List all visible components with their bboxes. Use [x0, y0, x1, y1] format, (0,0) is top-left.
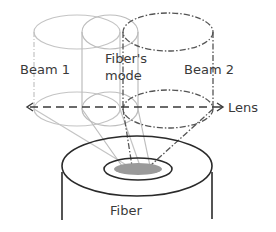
- lens-label: Lens: [228, 100, 258, 115]
- beam2-label: Beam 2: [184, 62, 234, 77]
- fiber-mode-label-line2: mode: [105, 68, 142, 83]
- fiber-mode-label-line1: Fiber's: [105, 51, 147, 66]
- beam1-label: Beam 1: [20, 62, 70, 77]
- fiber-core: [114, 163, 162, 175]
- beam2-cylinder: [123, 13, 213, 166]
- fiber-label: Fiber: [110, 203, 142, 218]
- lens-axis-arrow: [27, 103, 223, 111]
- fiber-mode-cylinder: [82, 15, 150, 166]
- fiber-beam-diagram: Beam 1 Fiber's mode Beam 2 Lens Fiber: [0, 0, 276, 232]
